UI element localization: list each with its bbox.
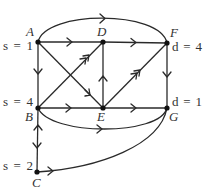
label-A: A (25, 24, 34, 39)
label-F: F (169, 25, 179, 40)
supply-B: s = 4 (3, 94, 34, 109)
network-diagram: A s = 1 D F d = 4 s = 4 B E d = 1 G s = … (0, 0, 205, 193)
label-C: C (32, 175, 41, 190)
edge-B-C (37, 108, 38, 172)
supply-A: s = 1 (3, 38, 33, 53)
node-C (34, 169, 39, 174)
supply-C: s = 2 (3, 158, 33, 173)
label-G: G (169, 109, 179, 124)
edge-E-F (103, 43, 167, 108)
demand-G: d = 1 (172, 94, 202, 109)
node-D (100, 39, 105, 44)
node-B (35, 105, 40, 110)
node-F (164, 40, 169, 45)
label-B: B (25, 109, 33, 124)
demand-F: d = 4 (172, 39, 203, 54)
label-D: D (96, 24, 107, 39)
node-A (35, 39, 40, 44)
label-E: E (96, 109, 105, 124)
